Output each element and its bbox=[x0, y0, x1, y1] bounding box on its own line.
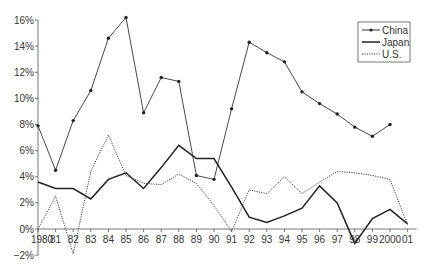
y-tick-label: −2% bbox=[14, 250, 34, 261]
y-tick-label: 8% bbox=[20, 119, 35, 130]
data-point-marker bbox=[371, 135, 374, 138]
y-tick-label: 10% bbox=[14, 93, 34, 104]
x-tick-label: 95 bbox=[296, 234, 308, 245]
line-chart: −2%0%2%4%6%8%10%12%14%16%198081828384858… bbox=[0, 0, 431, 273]
data-point-marker bbox=[230, 107, 233, 110]
y-tick-label: 16% bbox=[14, 15, 34, 26]
x-tick-label: 99 bbox=[367, 234, 379, 245]
x-tick-label: 86 bbox=[138, 234, 150, 245]
data-point-marker bbox=[265, 51, 268, 54]
data-point-marker bbox=[54, 169, 57, 172]
data-point-marker bbox=[89, 89, 92, 92]
data-point-marker bbox=[107, 37, 110, 40]
y-tick-label: 12% bbox=[14, 67, 34, 78]
x-tick-label: 81 bbox=[50, 234, 62, 245]
data-point-marker bbox=[283, 60, 286, 63]
data-point-marker bbox=[36, 124, 39, 127]
data-point-marker bbox=[124, 16, 127, 19]
axes: −2%0%2%4%6%8%10%12%14%16%198081828384858… bbox=[14, 15, 417, 261]
marker-icon bbox=[369, 28, 372, 31]
y-tick-label: 2% bbox=[20, 197, 35, 208]
legend-label-japan: Japan bbox=[382, 37, 409, 48]
plot-lines bbox=[36, 16, 407, 254]
data-point-marker bbox=[318, 102, 321, 105]
y-tick-label: 0% bbox=[20, 224, 35, 235]
data-point-marker bbox=[388, 123, 391, 126]
x-tick-label: 85 bbox=[120, 234, 132, 245]
x-tick-label: 89 bbox=[191, 234, 203, 245]
data-point-marker bbox=[336, 112, 339, 115]
data-point-marker bbox=[212, 178, 215, 181]
data-point-marker bbox=[248, 41, 251, 44]
x-tick-label: 91 bbox=[226, 234, 238, 245]
x-tick-label: 94 bbox=[279, 234, 291, 245]
x-tick-label: 2000 bbox=[379, 234, 402, 245]
x-tick-label: 83 bbox=[85, 234, 97, 245]
y-tick-label: 6% bbox=[20, 145, 35, 156]
x-tick-label: 97 bbox=[332, 234, 344, 245]
legend-label-us: U.S. bbox=[382, 49, 401, 60]
data-point-marker bbox=[195, 174, 198, 177]
legend-label-china: China bbox=[382, 25, 409, 36]
x-tick-label: 87 bbox=[156, 234, 168, 245]
data-point-marker bbox=[177, 80, 180, 83]
data-point-marker bbox=[142, 111, 145, 114]
y-tick-label: 4% bbox=[20, 171, 35, 182]
data-point-marker bbox=[353, 125, 356, 128]
x-tick-label: 90 bbox=[208, 234, 220, 245]
x-tick-label: 01 bbox=[402, 234, 414, 245]
x-tick-label: 88 bbox=[173, 234, 185, 245]
data-point-marker bbox=[72, 119, 75, 122]
legend: China Japan U.S. bbox=[358, 22, 410, 62]
data-point-marker bbox=[160, 76, 163, 79]
x-tick-label: 93 bbox=[261, 234, 273, 245]
y-tick-label: 14% bbox=[14, 41, 34, 52]
series-china bbox=[38, 17, 390, 179]
x-tick-label: 92 bbox=[244, 234, 256, 245]
data-point-marker bbox=[300, 90, 303, 93]
x-tick-label: 96 bbox=[314, 234, 326, 245]
x-tick-label: 84 bbox=[103, 234, 115, 245]
